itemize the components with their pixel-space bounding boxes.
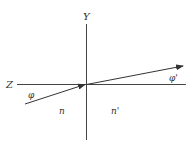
incident-angle-label: φ	[28, 90, 35, 100]
left-medium-index: n	[59, 106, 65, 116]
refraction-diagram: Y Z φ φ' n n'	[0, 0, 192, 148]
y-axis-label: Y	[83, 11, 91, 22]
right-medium-index: n'	[111, 106, 119, 116]
refracted-angle-label: φ'	[169, 73, 178, 83]
z-axis-label: Z	[5, 79, 14, 90]
